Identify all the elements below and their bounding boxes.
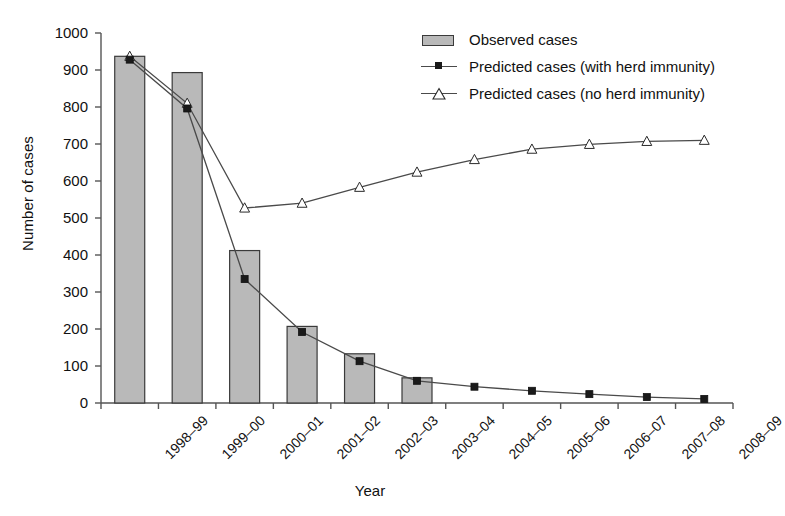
bar [115, 56, 145, 403]
markers-with-herd-immunity [126, 56, 708, 402]
legend-label-with-herd-immunity: Predicted cases (with herd immunity) [469, 58, 715, 75]
bar-swatch-icon [420, 32, 460, 48]
bar-series-observed-cases [115, 56, 432, 403]
line-triangle-marker-icon [420, 86, 460, 102]
x-axis-title: Year [280, 482, 460, 499]
data-point-marker [356, 358, 363, 365]
legend-item-no-herd-immunity: Predicted cases (no herd immunity) [420, 80, 770, 107]
data-point-marker [528, 387, 535, 394]
data-point-marker [126, 56, 133, 63]
data-point-marker [241, 276, 248, 283]
y-axis-ticks [95, 33, 101, 403]
bar [230, 251, 260, 403]
line-series-with-herd-immunity [130, 60, 705, 399]
data-point-marker [701, 395, 708, 402]
data-point-marker [471, 383, 478, 390]
legend-label-observed-cases: Observed cases [469, 31, 577, 48]
data-point-marker [414, 377, 421, 384]
legend-item-with-herd-immunity: Predicted cases (with herd immunity) [420, 53, 770, 80]
legend-item-observed-cases: Observed cases [420, 26, 770, 53]
legend-label-no-herd-immunity: Predicted cases (no herd immunity) [469, 85, 705, 102]
data-point-marker [643, 394, 650, 401]
chart-legend: Observed cases Predicted cases (with her… [420, 26, 770, 107]
data-point-marker [299, 328, 306, 335]
data-point-marker [184, 105, 191, 112]
data-point-marker [586, 391, 593, 398]
line-square-marker-icon [420, 59, 460, 75]
x-axis-ticks [101, 403, 733, 409]
